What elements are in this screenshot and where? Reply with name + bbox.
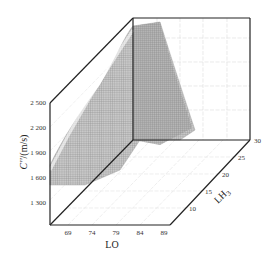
svg-text:C''/(m/s): C''/(m/s) — [18, 135, 30, 170]
z-tick: 1 900 — [30, 149, 46, 157]
x-axis-ticks: 69 74 79 84 89 — [65, 229, 169, 237]
surface-chart: 2 500 2 200 1 900 1 600 1 300 C''/(m/s) … — [0, 0, 274, 256]
z-axis-ticks: 2 500 2 200 1 900 1 600 1 300 — [30, 99, 46, 207]
z-axis-label: C''/(m/s) — [18, 135, 30, 170]
y-axis-label: LH3 — [212, 185, 233, 206]
y-tick: 30 — [254, 137, 262, 145]
z-tick: 2 200 — [30, 124, 46, 132]
svg-text:LH3: LH3 — [212, 185, 233, 206]
z-tick: 2 500 — [30, 99, 46, 107]
y-tick: 15 — [205, 188, 213, 196]
y-tick: 20 — [222, 171, 230, 179]
x-tick: 74 — [89, 229, 97, 237]
z-tick: 1 600 — [30, 174, 46, 182]
x-axis-label: LO — [105, 239, 118, 250]
y-tick: 10 — [189, 205, 197, 213]
surface-mesh — [50, 22, 195, 185]
z-tick: 1 300 — [30, 199, 46, 207]
x-tick: 79 — [113, 229, 121, 237]
x-tick: 89 — [161, 229, 169, 237]
y-axis-ticks: 10 15 20 25 30 — [189, 137, 262, 213]
x-tick: 84 — [137, 229, 145, 237]
y-tick: 25 — [238, 154, 246, 162]
x-tick: 69 — [65, 229, 73, 237]
